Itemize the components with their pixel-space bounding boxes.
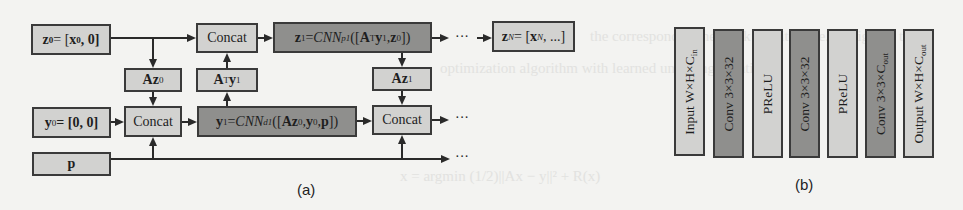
z0-init-box: z0 = [x0, 0] — [31, 24, 111, 55]
concat-right-label: Concat — [382, 112, 422, 128]
connector-p-to-concat-bottom — [152, 145, 154, 158]
layer-output-subscript: out — [917, 44, 927, 56]
layer-conv-out-label: Conv 3×3×Cout — [872, 53, 889, 135]
layer-prelu-1-text: PReLU — [760, 73, 775, 114]
layer-input-label: Input W×H×Cin — [681, 49, 698, 134]
z1-open-bracket: ([ — [350, 30, 359, 46]
p-label: p — [68, 156, 76, 172]
y1-p-symbol: p — [321, 114, 329, 130]
arrow-right-icon — [363, 117, 372, 125]
xN-symbol: x — [530, 29, 537, 45]
layer-conv-out: Conv 3×3×Cout — [865, 29, 896, 158]
arrow-right-icon — [441, 155, 450, 163]
y1-out-symbol: y — [216, 114, 223, 130]
az1-symbol: Az — [392, 71, 408, 87]
ellipsis-mid: ··· — [455, 111, 469, 125]
arrow-down-icon — [398, 58, 406, 67]
arrow-right-icon — [187, 34, 196, 42]
layer-prelu-1: PReLU — [752, 29, 783, 158]
arrow-right-icon — [440, 34, 449, 42]
layer-conv-2-label: Conv 3×3×32 — [797, 56, 813, 131]
y1-symbol: y — [229, 72, 236, 88]
connector-z0-to-az0 — [152, 38, 154, 60]
arrow-down-icon — [149, 59, 157, 68]
z1-equals: = — [305, 30, 313, 46]
y1-close-bracket: ]) — [329, 114, 338, 130]
layer-conv-1-text: Conv 3×3×32 — [721, 56, 736, 131]
layer-prelu-2-text: PReLU — [835, 73, 850, 114]
arrow-down-icon — [149, 97, 157, 106]
z1-y-symbol: y — [375, 30, 382, 46]
x0-symbol: x — [69, 32, 76, 48]
panel-b-caption: (b) — [795, 176, 813, 193]
arrow-up-icon — [398, 135, 406, 144]
concat-right-box: Concat — [372, 105, 432, 135]
layer-output-text: Output W×H×C — [910, 56, 925, 143]
cnn-dual-fn: CNN — [235, 114, 263, 130]
y1-y0-symbol: y — [306, 114, 313, 130]
az0-subscript: 0 — [159, 75, 164, 85]
z1-close-bracket: ]) — [401, 30, 410, 46]
connector-p-to-concat-right — [401, 143, 403, 158]
panel-a-caption: (a) — [297, 181, 315, 198]
arrow-up-icon — [223, 53, 231, 62]
layer-input-subscript: in — [688, 49, 698, 56]
zN-rest: , ...] — [543, 29, 565, 45]
connector-p-line — [111, 158, 442, 160]
arrow-right-icon — [440, 116, 449, 124]
layer-input-text: Input W×H×C — [681, 56, 696, 134]
layer-output: Output W×H×Cout — [903, 29, 934, 158]
concat-top-box: Concat — [196, 23, 258, 53]
arrow-up-icon — [223, 92, 231, 101]
layer-conv-1: Conv 3×3×32 — [713, 29, 744, 158]
layer-prelu-2-label: PReLU — [835, 73, 851, 114]
y1-az-symbol: Az — [282, 114, 298, 130]
y1-open-bracket: ([ — [272, 114, 281, 130]
background-bleed-text: x = argmin (1/2)||Ax − y||² + R(x) — [400, 168, 600, 185]
layer-prelu-1-label: PReLU — [760, 73, 776, 114]
cnn-primal-fn: CNN — [313, 30, 341, 46]
layer-output-label: Output W×H×Cout — [910, 44, 927, 143]
p-parameter-box: p — [32, 152, 111, 176]
ellipsis-bottom: ··· — [455, 150, 469, 164]
layer-conv-out-text: Conv 3×3×C — [872, 64, 887, 134]
arrow-down-icon — [398, 96, 406, 105]
cnn-dual-subscript: d1 — [263, 117, 272, 127]
y1-subscript: 1 — [236, 75, 241, 85]
a-symbol: A — [213, 72, 223, 88]
ellipsis-top: ··· — [455, 30, 469, 44]
zN-equals: = [ — [514, 29, 530, 45]
arrow-right-icon — [188, 118, 197, 126]
az0-symbol: Az — [143, 72, 159, 88]
arrow-right-icon — [264, 34, 273, 42]
z0-rest: , 0] — [81, 32, 100, 48]
concat-bottom-box: Concat — [124, 106, 182, 137]
concat-bottom-label: Concat — [133, 114, 173, 130]
layer-conv-2-text: Conv 3×3×32 — [797, 56, 812, 131]
arrow-right-icon — [115, 118, 124, 126]
concat-top-label: Concat — [207, 30, 247, 46]
layer-input: Input W×H×Cin — [674, 27, 705, 156]
cnn-primal-subscript: p1 — [341, 33, 350, 43]
zN-output-box: zN = [xN, ...] — [492, 21, 575, 52]
arrow-right-icon — [483, 34, 492, 42]
aty1-box: ATy1 — [196, 68, 258, 92]
connector-z0-to-concat — [111, 37, 188, 39]
y0-symbol: y — [45, 115, 52, 131]
cnn-primal-z1-box: z1 = CNNp1([ATy1, z0]) — [273, 22, 432, 53]
z0-equals: = [ — [53, 32, 69, 48]
y0-init-box: y0 = [0, 0] — [32, 107, 111, 138]
az1-box: Az1 — [372, 67, 432, 91]
z1-a-symbol: A — [360, 30, 370, 46]
y0-rest: = [0, 0] — [56, 115, 98, 131]
az0-box: Az0 — [124, 68, 182, 92]
cnn-dual-y1-box: y1 = CNNd1([Az0, y0, p]) — [197, 106, 357, 137]
layer-conv-out-subscript: out — [879, 53, 889, 65]
layer-prelu-2: PReLU — [827, 29, 858, 158]
y1-equals: = — [227, 114, 235, 130]
az1-subscript: 1 — [408, 74, 413, 84]
layer-conv-2: Conv 3×3×32 — [789, 29, 820, 158]
layer-conv-1-label: Conv 3×3×32 — [721, 56, 737, 131]
arrow-up-icon — [149, 137, 157, 146]
